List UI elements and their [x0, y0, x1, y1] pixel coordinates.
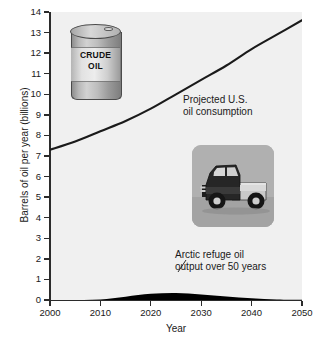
truck-illustration	[192, 145, 274, 227]
drum-label-line-2: OIL	[71, 61, 120, 72]
drum-label-text: CRUDE OIL	[71, 50, 120, 71]
drum-label-line-1: CRUDE	[71, 50, 120, 61]
arctic-annotation: Arctic refuge oil output over 50 years	[175, 249, 303, 273]
consumption-annotation: Projected U.S. oil consumption	[183, 94, 301, 118]
drum-lid	[70, 24, 121, 39]
arctic-annotation-line-1: Arctic refuge oil	[175, 249, 303, 261]
drum-cap	[104, 27, 113, 31]
pickup-truck-photo	[192, 145, 274, 227]
consumption-annotation-line-2: oil consumption	[183, 106, 301, 118]
crude-oil-drum-icon: CRUDE OIL	[68, 23, 123, 106]
oil-consumption-chart: 01234567891011121314 2000201020202030204…	[0, 0, 328, 345]
annotation-leader-layer	[0, 0, 328, 345]
consumption-annotation-line-1: Projected U.S.	[183, 94, 301, 106]
drum-rib-bottom	[71, 81, 120, 82]
arctic-annotation-line-2: output over 50 years	[175, 261, 303, 273]
drum-rib-top	[71, 47, 120, 48]
